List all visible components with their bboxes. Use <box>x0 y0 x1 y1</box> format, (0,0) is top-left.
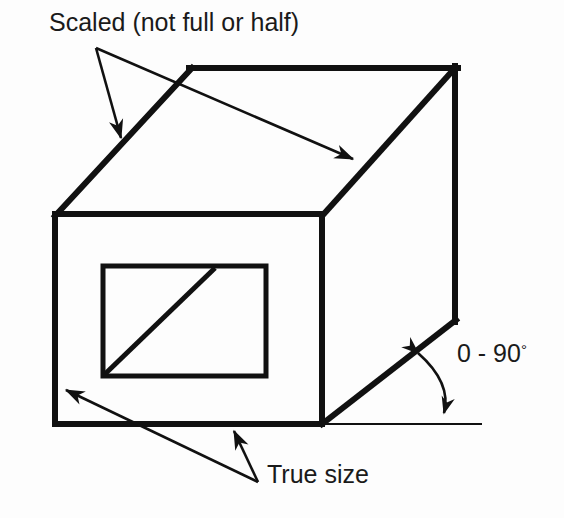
scaled-annotation-label: Scaled (not full or half) <box>49 10 299 35</box>
front-face-rectangle <box>55 214 322 424</box>
angle-annotation-label: 0 - 90° <box>457 341 527 366</box>
angle-arc-double-arrow <box>418 353 446 413</box>
inner-detail-rectangle <box>103 266 266 376</box>
scaled-leader-line-1 <box>96 48 121 138</box>
inner-diagonal-line <box>105 268 215 374</box>
receding-edge-top-left <box>55 68 192 216</box>
true-size-leader-line-2 <box>234 431 258 482</box>
degree-symbol-icon: ° <box>521 341 527 358</box>
diagram-canvas: Scaled (not full or half) True size 0 - … <box>0 0 564 518</box>
true-size-leader-line-1 <box>66 390 258 482</box>
angle-range-value: 0 - 90 <box>457 339 521 367</box>
receding-edge-top-right <box>322 68 455 216</box>
angle-arc-path <box>418 353 446 413</box>
oblique-projection-drawing <box>0 0 564 518</box>
scaled-leader-group <box>96 48 353 159</box>
true-size-annotation-label: True size <box>267 462 369 487</box>
true-size-leader-group <box>66 390 258 482</box>
scaled-leader-line-2 <box>96 48 353 159</box>
